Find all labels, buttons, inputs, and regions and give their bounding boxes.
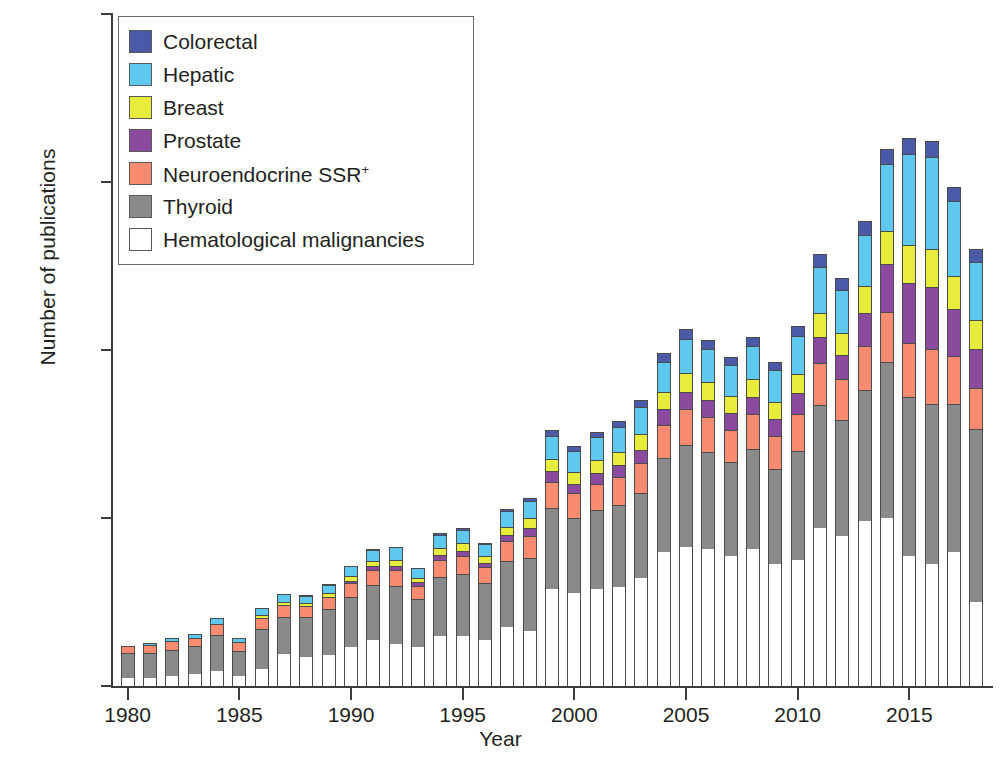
- x-tick-mark: [462, 688, 464, 700]
- bar-1998[interactable]: [523, 498, 537, 686]
- bar-2002[interactable]: [612, 421, 626, 686]
- bar-2004[interactable]: [657, 353, 671, 686]
- legend-item[interactable]: Breast: [129, 91, 463, 124]
- bar-segment-prostate: [680, 392, 692, 410]
- bar-1981[interactable]: [143, 643, 157, 686]
- bar-segment-thyroid: [300, 617, 312, 657]
- bar-segment-breast: [457, 543, 469, 551]
- bar-segment-prostate: [725, 413, 737, 429]
- legend-item[interactable]: Prostate: [129, 124, 463, 157]
- legend-swatch-prostate: [129, 129, 152, 152]
- bar-2007[interactable]: [724, 357, 738, 686]
- bar-2009[interactable]: [768, 362, 782, 686]
- bar-segment-thyroid: [367, 585, 379, 640]
- bar-1990[interactable]: [344, 566, 358, 686]
- legend-item[interactable]: Neuroendocrine SSR+: [129, 157, 463, 190]
- bar-segment-breast: [792, 374, 804, 393]
- bar-segment-hepatic: [345, 566, 357, 576]
- bar-segment-thyroid: [457, 574, 469, 635]
- bar-2000[interactable]: [567, 446, 581, 686]
- bar-segment-hepatic: [970, 262, 982, 320]
- legend-item[interactable]: Hepatic: [129, 58, 463, 91]
- bar-segment-colorectal: [792, 326, 804, 336]
- bar-1999[interactable]: [545, 430, 559, 686]
- bar-2011[interactable]: [813, 254, 827, 686]
- bar-2001[interactable]: [590, 432, 604, 686]
- bar-segment-breast: [524, 518, 536, 528]
- bar-2006[interactable]: [701, 340, 715, 686]
- bar-2016[interactable]: [925, 141, 939, 686]
- bar-2008[interactable]: [746, 337, 760, 686]
- bar-segment-breast: [725, 396, 737, 413]
- bar-segment-hematological-malignancies: [211, 671, 223, 686]
- bar-segment-hepatic: [390, 547, 402, 560]
- bar-2015[interactable]: [902, 138, 916, 686]
- bar-segment-thyroid: [613, 505, 625, 587]
- bar-1994[interactable]: [433, 533, 447, 686]
- bar-segment-hepatic: [635, 407, 647, 434]
- bar-segment-breast: [769, 402, 781, 419]
- bar-segment-prostate: [814, 337, 826, 363]
- bar-segment-thyroid: [479, 583, 491, 639]
- bar-segment-breast: [814, 313, 826, 337]
- bar-1985[interactable]: [232, 638, 246, 686]
- bar-1982[interactable]: [165, 638, 179, 686]
- bar-1995[interactable]: [456, 528, 470, 686]
- x-tick-label: 2010: [753, 703, 843, 727]
- bar-segment-hepatic: [702, 349, 714, 382]
- bar-1997[interactable]: [500, 509, 514, 686]
- legend-swatch-hematological-malignancies: [129, 228, 152, 251]
- bar-segment-hematological-malignancies: [300, 657, 312, 686]
- bar-2013[interactable]: [858, 221, 872, 686]
- bar-1980[interactable]: [121, 646, 135, 686]
- bar-segment-neuroendocrine-ssr: [323, 597, 335, 610]
- bar-segment-breast: [881, 231, 893, 264]
- bar-segment-thyroid: [568, 518, 580, 593]
- legend-item-label: Prostate: [163, 130, 241, 151]
- y-axis-title: Number of publications: [36, 117, 60, 397]
- bar-2014[interactable]: [880, 149, 894, 686]
- bar-1989[interactable]: [322, 584, 336, 686]
- bar-1988[interactable]: [299, 595, 313, 686]
- bar-1991[interactable]: [366, 549, 380, 686]
- bar-segment-hematological-malignancies: [479, 640, 491, 686]
- bar-segment-neuroendocrine-ssr: [189, 638, 201, 647]
- bar-1992[interactable]: [389, 547, 403, 686]
- bar-segment-breast: [479, 556, 491, 563]
- x-tick-label: 1990: [306, 703, 396, 727]
- legend-item[interactable]: Colorectal: [129, 25, 463, 58]
- bar-2018[interactable]: [969, 249, 983, 686]
- bar-segment-hematological-malignancies: [367, 640, 379, 686]
- bar-segment-colorectal: [702, 340, 714, 349]
- bar-segment-thyroid: [702, 452, 714, 550]
- bar-1986[interactable]: [255, 608, 269, 686]
- bar-segment-colorectal: [658, 353, 670, 361]
- bar-1983[interactable]: [188, 634, 202, 686]
- bar-2010[interactable]: [791, 326, 805, 686]
- bar-segment-neuroendocrine-ssr: [479, 567, 491, 583]
- bar-1996[interactable]: [478, 543, 492, 686]
- bar-2005[interactable]: [679, 329, 693, 686]
- legend-item[interactable]: Hematological malignancies: [129, 223, 463, 256]
- bar-2012[interactable]: [835, 278, 849, 686]
- bar-segment-prostate: [568, 484, 580, 493]
- bar-segment-prostate: [658, 409, 670, 425]
- bar-segment-hematological-malignancies: [546, 589, 558, 686]
- legend-swatch-hepatic: [129, 63, 152, 86]
- legend-item[interactable]: Thyroid: [129, 190, 463, 223]
- bar-segment-hematological-malignancies: [457, 636, 469, 686]
- bar-segment-thyroid: [412, 599, 424, 647]
- bar-segment-hematological-malignancies: [412, 647, 424, 686]
- y-tick-mark: [101, 517, 112, 519]
- bar-2003[interactable]: [634, 400, 648, 686]
- legend-swatch-breast: [129, 96, 152, 119]
- bar-1987[interactable]: [277, 594, 291, 686]
- bar-1984[interactable]: [210, 618, 224, 686]
- bar-segment-prostate: [546, 471, 558, 481]
- bar-1993[interactable]: [411, 568, 425, 686]
- legend: ColorectalHepaticBreastProstateNeuroendo…: [118, 16, 474, 265]
- bar-segment-neuroendocrine-ssr: [814, 363, 826, 405]
- bar-segment-neuroendocrine-ssr: [457, 556, 469, 574]
- x-tick-mark: [573, 688, 575, 700]
- bar-2017[interactable]: [947, 187, 961, 686]
